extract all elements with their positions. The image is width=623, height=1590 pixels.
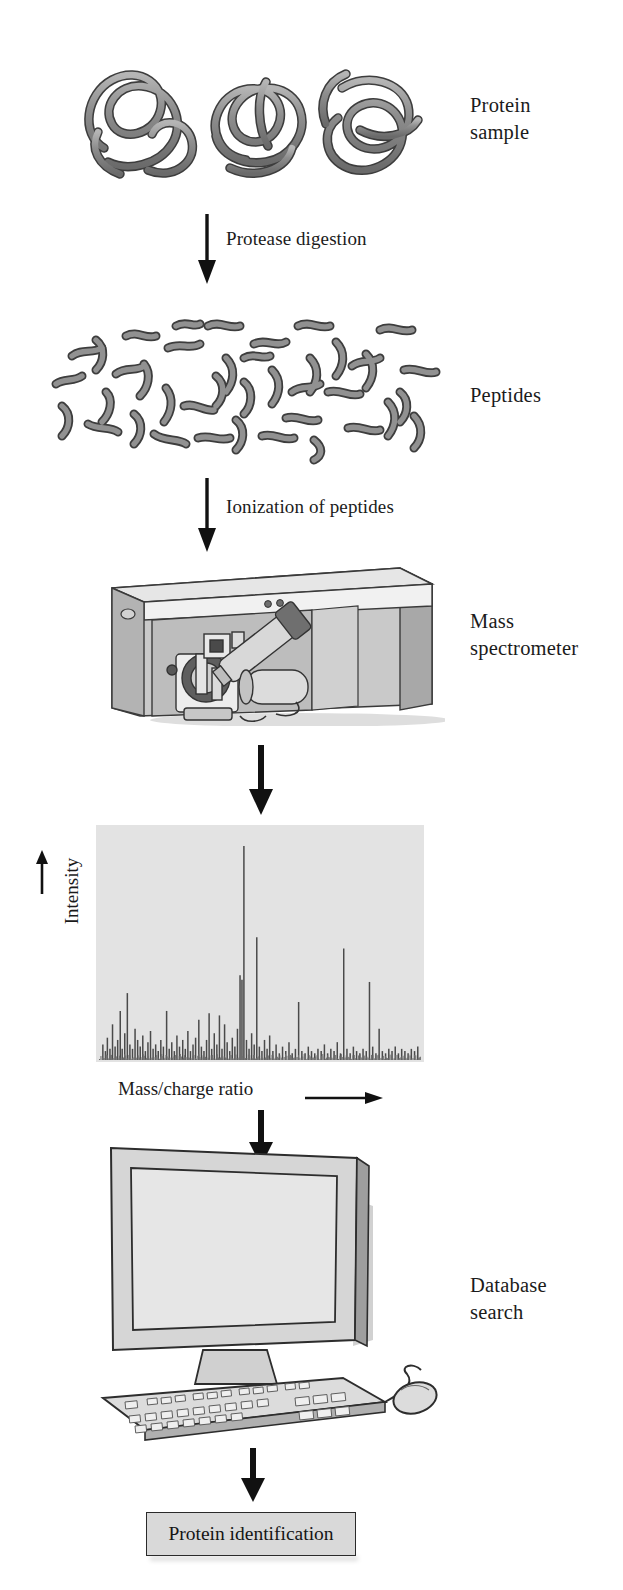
protein-chains-illustration [60, 38, 432, 203]
label-protein-sample-line1: Protein [470, 92, 531, 119]
label-database-search-line1: Database [470, 1272, 547, 1299]
label-protein-sample-line2: sample [470, 119, 531, 146]
label-mass-spectrometer-line2: spectrometer [470, 635, 578, 662]
workstation-illustration [85, 1140, 445, 1485]
arrow-ionization [194, 478, 220, 554]
arrow-protease-digestion [194, 214, 220, 286]
peptide-fragments-illustration [48, 296, 442, 466]
label-peptides-line1: Peptides [470, 382, 541, 409]
step-label-ionization: Ionization of peptides [226, 496, 394, 518]
label-mass-spectrometer: Mass spectrometer [470, 608, 578, 662]
mass-charge-axis-arrow [305, 1090, 383, 1110]
protein-identification-label: Protein identification [168, 1523, 333, 1545]
spectrum-x-axis-label: Mass/charge ratio [118, 1078, 253, 1100]
label-mass-spectrometer-line1: Mass [470, 608, 578, 635]
arrow-to-spectrum [244, 745, 278, 817]
label-protein-sample: Protein sample [470, 92, 531, 146]
step-label-protease-digestion: Protease digestion [226, 228, 367, 250]
arrow-to-protein-identification [236, 1448, 270, 1504]
mass-spectrum-plot [96, 825, 424, 1062]
intensity-axis-arrow [34, 850, 50, 898]
mass-spectrometer-illustration [100, 558, 445, 726]
label-database-search-line2: search [470, 1299, 547, 1326]
spectrum-peaks [96, 825, 424, 1062]
spectrum-y-axis-label: Intensity [61, 811, 83, 971]
label-peptides: Peptides [470, 382, 541, 409]
diagram-canvas: Protein sample Protease digestion [0, 0, 623, 1590]
label-database-search: Database search [470, 1272, 547, 1326]
protein-identification-box: Protein identification [146, 1512, 356, 1556]
result-box-shadow [150, 1556, 358, 1561]
